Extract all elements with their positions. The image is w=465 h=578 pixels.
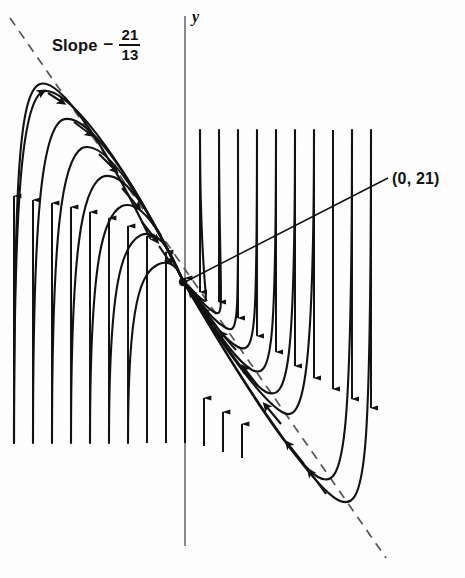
slope-annotation: Slope − 21 13 xyxy=(52,28,140,63)
field-lines-right xyxy=(200,130,371,408)
slope-minus-sign: − xyxy=(102,35,114,57)
slope-fraction: 21 13 xyxy=(119,27,140,62)
critical-point-marker xyxy=(179,278,187,286)
field-ticks-near-origin xyxy=(204,398,242,458)
slope-denominator: 13 xyxy=(119,47,140,63)
trajectory-arrowheads-outer xyxy=(310,472,326,494)
slope-word: Slope xyxy=(52,36,97,55)
trajectories-lower-right xyxy=(183,130,314,414)
slope-numerator: 21 xyxy=(119,27,140,43)
phase-portrait-canvas xyxy=(0,0,465,578)
y-axis-label: y xyxy=(192,8,199,26)
phase-portrait-figure: Slope − 21 13 y (0, 21) xyxy=(0,0,465,578)
critical-point-label: (0, 21) xyxy=(392,170,440,188)
critical-point-leader-line xyxy=(183,178,388,283)
